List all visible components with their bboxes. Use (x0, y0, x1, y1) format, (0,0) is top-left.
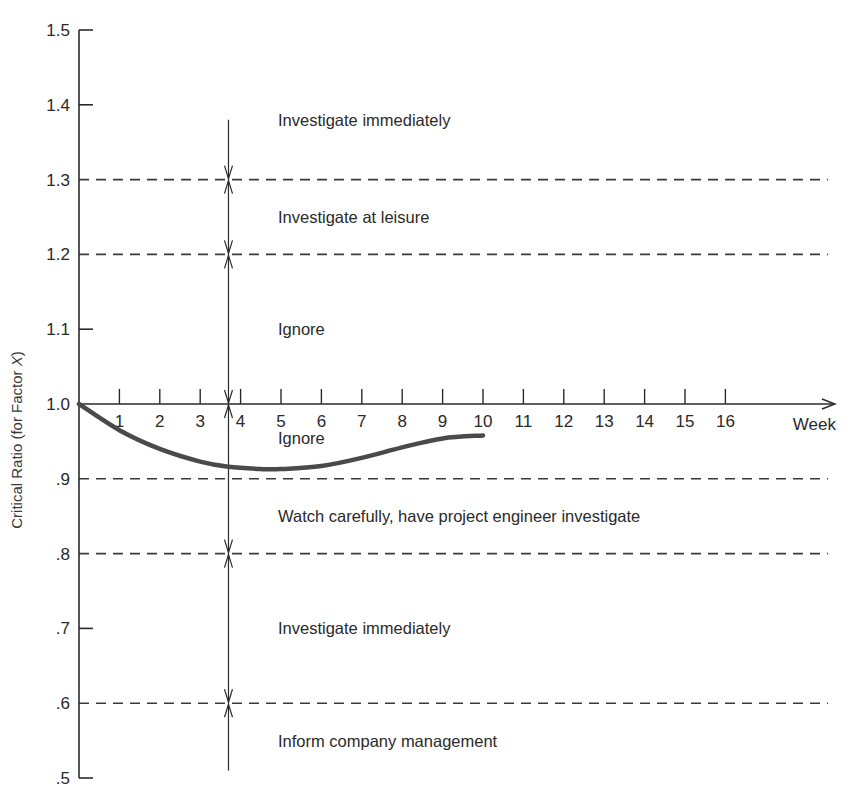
y-tick-label: 1.5 (46, 21, 70, 40)
x-tick-label: 8 (397, 412, 406, 431)
x-tick-label: 13 (595, 412, 614, 431)
y-tick-label: 1.2 (46, 245, 70, 264)
x-tick-label: 2 (155, 412, 164, 431)
x-tick-label: 7 (357, 412, 366, 431)
zone-label: Inform company management (278, 732, 498, 750)
control-chart: 1.51.41.31.21.11.0.9.8.7.6.5 12345678910… (0, 0, 858, 812)
zone-labels: Investigate immediatelyInvestigate at le… (278, 111, 640, 750)
y-axis-label: Critical Ratio (for Factor X) (8, 351, 25, 529)
y-tick-label: .8 (56, 545, 70, 564)
threshold-lines (79, 180, 828, 704)
zone-label: Investigate at leisure (278, 208, 429, 226)
x-tick-label: 4 (236, 412, 245, 431)
x-tick-label: 12 (554, 412, 573, 431)
x-axis-label: Week (793, 415, 837, 434)
x-tick-label: 14 (635, 412, 654, 431)
zone-label: Ignore (278, 429, 325, 447)
zone-label: Watch carefully, have project engineer i… (278, 507, 640, 525)
zone-label: Investigate immediately (278, 619, 451, 637)
zone-label: Ignore (278, 320, 325, 338)
x-tick-label: 9 (438, 412, 447, 431)
x-tick-label: 10 (474, 412, 493, 431)
x-tick-label: 3 (195, 412, 204, 431)
y-tick-label: 1.1 (46, 320, 70, 339)
x-tick-label: 11 (515, 412, 533, 431)
y-tick-label: 1.3 (46, 171, 70, 190)
y-tick-label: .5 (56, 769, 70, 788)
y-tick-label: .9 (56, 470, 70, 489)
range-arrows (224, 120, 232, 771)
x-tick-label: 15 (676, 412, 695, 431)
y-tick-label: .7 (56, 619, 70, 638)
x-axis: 12345678910111213141516 (79, 389, 835, 431)
zone-label: Investigate immediately (278, 111, 451, 129)
y-tick-label: .6 (56, 694, 70, 713)
x-tick-label: 16 (716, 412, 735, 431)
y-tick-label: 1.0 (46, 395, 70, 414)
y-tick-label: 1.4 (46, 96, 70, 115)
